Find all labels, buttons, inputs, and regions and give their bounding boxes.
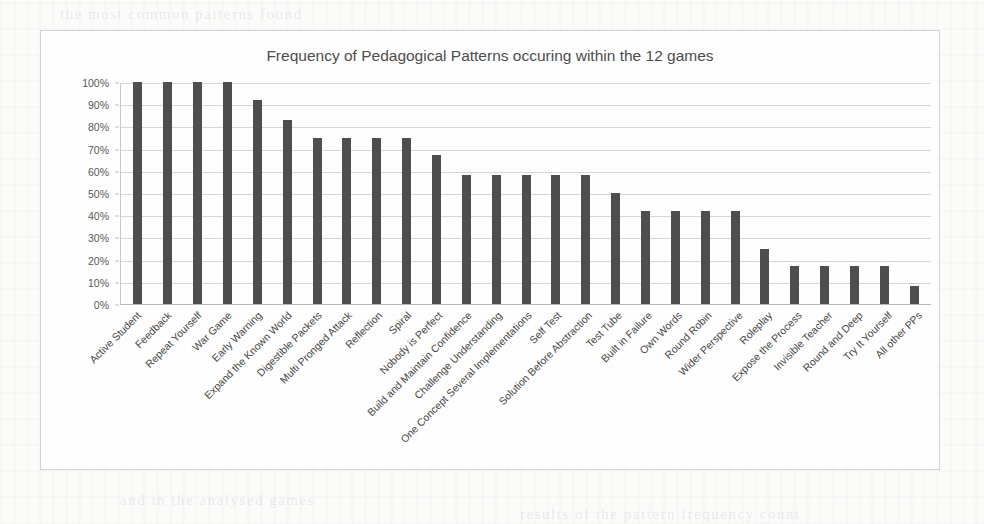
bar[interactable] <box>551 175 560 304</box>
bar[interactable] <box>910 286 919 304</box>
bar[interactable] <box>462 175 471 304</box>
bar-slot <box>332 83 362 304</box>
y-axis-tick-mark <box>115 216 119 217</box>
x-axis-label: Spiral <box>386 309 413 336</box>
chart-container: Frequency of Pedagogical Patterns occuri… <box>40 30 940 470</box>
bar[interactable] <box>641 211 650 304</box>
bar[interactable] <box>880 266 889 304</box>
bar[interactable] <box>581 175 590 304</box>
bar-slot <box>242 83 272 304</box>
y-axis-tick-label: 40% <box>88 210 109 222</box>
y-axis-tick-label: 20% <box>88 255 109 267</box>
bar-slot <box>481 83 511 304</box>
bar-slot <box>631 83 661 304</box>
bar[interactable] <box>731 211 740 304</box>
bar-slot <box>750 83 780 304</box>
bar[interactable] <box>253 100 262 304</box>
bar-slot <box>899 83 929 304</box>
bar[interactable] <box>522 175 531 304</box>
bar-slot <box>571 83 601 304</box>
plot-area <box>120 83 931 305</box>
bar[interactable] <box>492 175 501 304</box>
y-axis-tick-label: 80% <box>88 121 109 133</box>
bar[interactable] <box>372 138 381 305</box>
y-axis-tick-mark <box>115 105 119 106</box>
bar-series <box>121 83 931 304</box>
bar-slot <box>511 83 541 304</box>
y-axis-tick-mark <box>115 127 119 128</box>
bar-slot <box>302 83 332 304</box>
y-axis-tick-mark <box>115 260 119 261</box>
bar[interactable] <box>850 266 859 304</box>
y-axis-tick-label: 90% <box>88 99 109 111</box>
y-axis-tick-label: 10% <box>88 277 109 289</box>
bar[interactable] <box>283 120 292 304</box>
bar-slot <box>780 83 810 304</box>
bar[interactable] <box>402 138 411 305</box>
bar[interactable] <box>820 266 829 304</box>
y-axis-tick-label: 70% <box>88 144 109 156</box>
y-axis-tick-mark <box>115 238 119 239</box>
y-axis-tick-mark <box>115 305 119 306</box>
plot-wrapper: 100%90%80%70%60%50%40%30%20%10%0% <box>79 83 931 305</box>
bar[interactable] <box>790 266 799 304</box>
bar[interactable] <box>163 82 172 304</box>
y-axis: 100%90%80%70%60%50%40%30%20%10%0% <box>79 83 115 305</box>
chart-title: Frequency of Pedagogical Patterns occuri… <box>41 47 939 65</box>
bar-slot <box>213 83 243 304</box>
y-axis-tick-label: 0% <box>94 299 109 311</box>
bar-slot <box>392 83 422 304</box>
bar[interactable] <box>701 211 710 304</box>
bar-slot <box>123 83 153 304</box>
bar[interactable] <box>313 138 322 305</box>
bar-slot <box>422 83 452 304</box>
y-axis-tick-label: 60% <box>88 166 109 178</box>
y-axis-tick-mark <box>115 282 119 283</box>
bar-slot <box>720 83 750 304</box>
y-axis-tick-label: 50% <box>88 188 109 200</box>
bar-slot <box>451 83 481 304</box>
bar-slot <box>272 83 302 304</box>
bar-slot <box>183 83 213 304</box>
x-axis-labels: Active StudentFeedbackRepeat YourselfWar… <box>120 309 931 449</box>
y-axis-tick-mark <box>115 149 119 150</box>
bar[interactable] <box>133 82 142 304</box>
bar[interactable] <box>611 193 620 304</box>
bar-slot <box>869 83 899 304</box>
bar-slot <box>153 83 183 304</box>
y-axis-tick-mark <box>115 83 119 84</box>
bar[interactable] <box>342 138 351 305</box>
bleed-text-top: the most common patterns found <box>60 6 302 23</box>
bar[interactable] <box>760 249 769 305</box>
bar-slot <box>362 83 392 304</box>
y-axis-tick-label: 100% <box>82 77 109 89</box>
y-axis-tick-label: 30% <box>88 232 109 244</box>
bar-slot <box>660 83 690 304</box>
bar[interactable] <box>432 155 441 304</box>
bleed-text-middle: and in the analysed games <box>120 492 315 509</box>
bar[interactable] <box>193 82 202 304</box>
bar-slot <box>810 83 840 304</box>
bar[interactable] <box>223 82 232 304</box>
bar-slot <box>840 83 870 304</box>
y-axis-tick-mark <box>115 194 119 195</box>
bar-slot <box>541 83 571 304</box>
bar[interactable] <box>671 211 680 304</box>
bleed-text-bottom: results of the pattern frequency count <box>520 506 801 523</box>
bar-slot <box>601 83 631 304</box>
y-axis-tick-mark <box>115 171 119 172</box>
bar-slot <box>690 83 720 304</box>
